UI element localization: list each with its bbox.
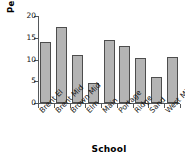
x-tick-mark [180, 104, 181, 108]
y-tick-label: 0 [14, 98, 36, 107]
y-tick-group: 20 [38, 16, 39, 17]
y-tick-label: 20 [14, 11, 36, 20]
y-tick-group: 15 [38, 38, 39, 39]
bar [104, 40, 115, 103]
bar [40, 42, 51, 103]
x-axis-title: School [38, 144, 180, 154]
y-tick-group: 5 [38, 81, 39, 82]
y-tick-label: 15 [14, 33, 36, 42]
x-tick-labels: Brent ElBrent MidBrown MidElmMainPortage… [38, 108, 180, 144]
y-tick-label: 5 [14, 76, 36, 85]
bar-chart: Percent 05101520 Brent ElBrent MidBrown … [0, 0, 185, 162]
y-tick-group: 10 [38, 60, 39, 61]
y-tick-label: 10 [14, 55, 36, 64]
